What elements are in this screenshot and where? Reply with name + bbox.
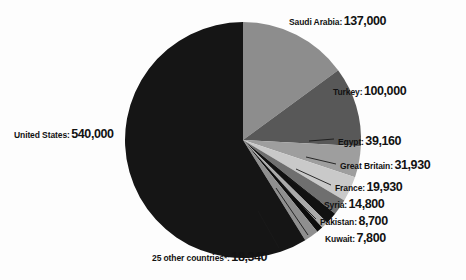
label-turkey-value: 100,000 [364,84,406,98]
label-pakistan-value: 8,700 [358,214,387,228]
label-turkey: Turkey:100,000 [333,82,406,98]
label-egypt-value: 39,160 [365,134,401,148]
label-united-states-name: United States: [14,130,70,140]
label-great-britain-value: 31,930 [394,158,430,172]
label-kuwait-value: 7,800 [357,231,386,245]
label-united-states-value: 540,000 [71,127,113,141]
label-great-britain: Great Britain:31,930 [340,156,430,172]
label-other-countries-name: 25 other countries*: [152,253,230,263]
label-saudi-arabia-name: Saudi Arabia: [289,17,342,27]
label-united-states: United States:540,000 [14,125,114,141]
label-syria-name: Syria: [324,200,347,210]
label-syria: Syria:14,800 [324,195,384,211]
pie-chart-figure: Saudi Arabia:137,000 Turkey:100,000 Egyp… [0,0,466,280]
label-egypt: Egypt:39,160 [338,132,401,148]
label-pakistan: Pakistan:8,700 [320,212,388,228]
label-kuwait-name: Kuwait: [325,234,355,244]
label-syria-value: 14,800 [349,197,385,211]
label-kuwait: Kuwait:7,800 [325,229,386,245]
label-france: France:19,930 [335,178,402,194]
label-saudi-arabia-value: 137,000 [344,14,386,28]
label-great-britain-name: Great Britain: [340,161,393,171]
label-pakistan-name: Pakistan: [320,217,357,227]
label-other-countries-value: 18,340 [231,250,267,264]
label-france-name: France: [335,183,365,193]
label-egypt-name: Egypt: [338,137,364,147]
label-other-countries: 25 other countries*:18,340 [152,248,267,264]
label-france-value: 19,930 [367,180,403,194]
label-turkey-name: Turkey: [333,87,362,97]
label-saudi-arabia: Saudi Arabia:137,000 [289,12,386,28]
